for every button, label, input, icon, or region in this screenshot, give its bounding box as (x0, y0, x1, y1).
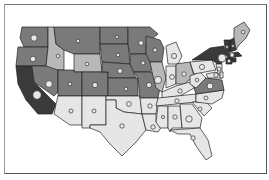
circle-marker-mn (139, 41, 144, 46)
circle-marker-wv (195, 78, 199, 82)
circle-marker-wi (153, 48, 157, 52)
circle-marker-il (154, 76, 161, 83)
circle-marker-sc (198, 107, 202, 111)
circle-marker-co (92, 82, 97, 87)
circle-marker-la (151, 125, 155, 129)
circle-marker-ia (141, 61, 145, 65)
state-me (234, 22, 250, 50)
circle-marker-in (170, 75, 175, 80)
circle-marker-nj (217, 67, 221, 71)
circle-marker-tx (120, 124, 124, 128)
circle-marker-az (69, 109, 73, 113)
circle-marker-ct (227, 59, 231, 63)
circle-marker-oh (182, 72, 186, 76)
state-mi (166, 42, 182, 64)
state-fl (170, 128, 212, 160)
circle-marker-nm (92, 109, 96, 113)
circle-marker-mt (76, 39, 80, 43)
state-az (54, 96, 82, 125)
state-de (220, 72, 223, 78)
circle-marker-ms (161, 115, 164, 118)
circle-marker-pa (199, 64, 204, 69)
circle-marker-wy (85, 62, 89, 66)
state-ri (232, 58, 236, 62)
circle-marker-ok (127, 102, 132, 107)
circle-marker-nc (204, 96, 208, 100)
circle-marker-nh (232, 45, 235, 48)
circle-marker-id (56, 54, 60, 58)
circle-marker-ne (118, 69, 123, 74)
circle-marker-md (214, 73, 218, 77)
circle-marker-or (30, 56, 36, 62)
circle-marker-ga (186, 116, 192, 122)
circle-marker-sd (116, 53, 120, 57)
circle-marker-wa (31, 35, 37, 41)
circle-marker-va (207, 83, 213, 89)
circle-marker-ut (68, 82, 72, 86)
circle-marker-ky (178, 89, 182, 93)
circle-marker-al (173, 115, 177, 119)
circle-marker-mo (146, 82, 151, 87)
state-sd (100, 44, 130, 64)
circle-marker-me (241, 30, 245, 34)
circle-marker-nd (115, 35, 118, 38)
circle-marker-ar (148, 104, 152, 108)
circle-marker-ks (124, 87, 128, 91)
circle-marker-fl (191, 136, 195, 140)
circle-marker-nv (46, 81, 53, 88)
state-ks (108, 78, 138, 96)
us-choropleth-map (0, 0, 269, 180)
state-layer (16, 22, 250, 160)
circle-marker-ca (33, 91, 41, 99)
state-nd (100, 27, 128, 44)
circle-marker-ny (218, 54, 226, 62)
circle-marker-vt (226, 46, 229, 49)
circle-marker-ma (230, 53, 234, 57)
circle-marker-tn (175, 99, 179, 103)
circle-marker-mi (171, 53, 176, 58)
